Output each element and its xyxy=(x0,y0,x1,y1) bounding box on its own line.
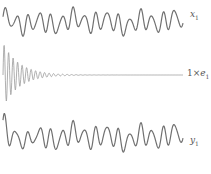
trace-y1 xyxy=(3,114,183,152)
trace-x1 xyxy=(3,7,183,36)
series-label-y1: y1 xyxy=(190,135,199,147)
series-label-x1: x1 xyxy=(190,9,199,21)
trace-e1 xyxy=(3,45,183,101)
waveform-plot xyxy=(0,0,211,174)
series-label-e1: 1×e1 xyxy=(187,68,209,80)
